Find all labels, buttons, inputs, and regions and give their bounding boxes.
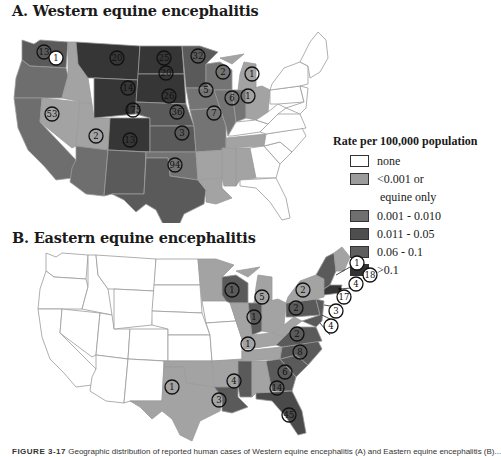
svg-text:45: 45	[284, 410, 295, 420]
svg-text:3: 3	[333, 306, 338, 316]
state-co	[128, 329, 168, 361]
legend-item-lowest-cont: equine only	[333, 188, 491, 207]
svg-text:1: 1	[169, 382, 174, 392]
count-nj: 17	[337, 290, 351, 304]
count-mt: 20	[110, 51, 124, 65]
count-co: 175	[125, 103, 141, 117]
figure-caption: FIGURE 3-17 Geographic distribution of r…	[12, 447, 501, 456]
legend-item-0001-0010: 0.001 - 0.010	[333, 207, 491, 225]
svg-text:14: 14	[123, 83, 134, 93]
svg-text:175: 175	[125, 105, 141, 115]
map-eastern-equine-encephalitis: 1 5 1 2 2 2 8 1 6 14 45 4 3 1 1 18 4 17 …	[0, 245, 400, 450]
caption-text: Geographic distribution of reported huma…	[68, 447, 501, 456]
state-wa	[46, 253, 88, 279]
state-sd	[152, 285, 202, 313]
panel-a-title: A. Western equine encephalitis	[12, 2, 259, 19]
count-wy: 14	[121, 81, 135, 95]
state-nd	[154, 259, 200, 285]
state-nm	[104, 150, 146, 196]
svg-text:53: 53	[47, 109, 58, 119]
svg-text:20: 20	[112, 53, 123, 63]
svg-text:36: 36	[172, 107, 183, 117]
svg-text:20: 20	[161, 68, 172, 78]
svg-text:3: 3	[179, 128, 184, 138]
svg-text:1: 1	[249, 69, 254, 79]
svg-text:14: 14	[272, 383, 283, 393]
count-ca: 53	[45, 107, 59, 121]
state-wi	[222, 275, 248, 303]
svg-text:6: 6	[229, 93, 234, 103]
svg-text:13: 13	[125, 135, 136, 145]
count-or: 1	[49, 51, 63, 65]
svg-text:1: 1	[354, 258, 359, 268]
count-fl: 45	[282, 408, 296, 422]
state-ar	[196, 150, 226, 180]
svg-text:4: 4	[231, 376, 236, 386]
svg-text:13: 13	[39, 47, 50, 57]
svg-text:7: 7	[211, 108, 216, 118]
svg-text:5: 5	[203, 85, 208, 95]
svg-text:1: 1	[53, 53, 58, 63]
svg-text:1: 1	[229, 285, 234, 295]
svg-text:17: 17	[339, 292, 350, 302]
state-ks	[168, 335, 212, 361]
state-wy	[114, 289, 154, 329]
legend-swatch	[350, 155, 369, 167]
state-me	[334, 247, 350, 271]
panel-b-title: B. Eastern equine encephalitis	[12, 229, 256, 246]
count-ri: 4	[349, 277, 363, 291]
legend-swatch	[350, 210, 369, 222]
state-mt	[76, 42, 140, 80]
state-ms	[222, 148, 236, 186]
state-ny	[270, 62, 308, 90]
legend-swatch	[350, 173, 369, 185]
count-nh: 1	[350, 256, 364, 270]
svg-text:1: 1	[251, 312, 256, 322]
legend-title: Rate per 100,000 population	[333, 134, 491, 149]
svg-text:5: 5	[259, 292, 264, 302]
legend-item-none: none	[333, 152, 491, 170]
count-de: 3	[329, 304, 343, 318]
svg-text:32: 32	[193, 51, 204, 61]
svg-text:1: 1	[245, 91, 250, 101]
state-mo	[206, 321, 242, 361]
svg-text:2: 2	[300, 285, 305, 295]
svg-text:2: 2	[293, 303, 298, 313]
count-ne: 26	[162, 89, 176, 103]
count-ma: 18	[363, 268, 377, 282]
svg-text:4: 4	[353, 279, 358, 289]
legend-swatch	[350, 228, 369, 240]
state-nm	[124, 359, 164, 403]
svg-text:2: 2	[220, 67, 225, 77]
svg-text:6: 6	[282, 367, 287, 377]
map-western-equine-encephalitis: 13 1 53 20 25 32 14 20 2 1 26 5 6 1 175 …	[0, 18, 330, 223]
state-az	[90, 355, 128, 403]
count-md-callout: 4	[324, 319, 338, 333]
count-nm: 13	[123, 133, 137, 147]
caption-label: FIGURE 3-17	[12, 447, 66, 456]
svg-text:2: 2	[294, 329, 299, 339]
count-mn: 32	[191, 49, 205, 63]
svg-text:25: 25	[159, 53, 170, 63]
count-nd: 25	[157, 51, 171, 65]
svg-text:4: 4	[328, 321, 333, 331]
svg-text:2: 2	[93, 131, 98, 141]
svg-text:3: 3	[216, 395, 221, 405]
count-ga: 14	[270, 381, 284, 395]
count-tx: 94	[168, 158, 182, 172]
svg-text:1: 1	[245, 339, 250, 349]
legend-item-lowest: <0.001 or	[333, 170, 491, 188]
state-ks	[150, 126, 196, 152]
count-ks: 36	[170, 105, 184, 119]
svg-text:26: 26	[164, 91, 175, 101]
count-sd: 20	[159, 66, 173, 80]
svg-text:18: 18	[365, 270, 376, 280]
legend-item-0011-005: 0.011 - 0.05	[333, 225, 491, 243]
state-fl	[240, 178, 290, 220]
state-fl	[256, 391, 306, 435]
state-az	[70, 146, 108, 196]
svg-text:94: 94	[170, 160, 181, 170]
svg-text:8: 8	[297, 347, 302, 357]
